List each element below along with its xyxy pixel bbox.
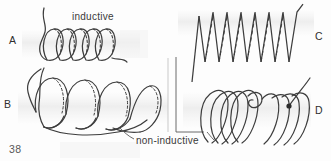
terminal-dot-d (286, 103, 291, 108)
annotation-non-inductive: non-inductive (136, 136, 199, 146)
annotation-inductive: inductive (72, 12, 114, 22)
panel-label-b: B (4, 99, 11, 110)
panel-label-d: D (315, 105, 323, 116)
figure-canvas: A B C D inductive non-inductive 38 (0, 0, 331, 161)
panel-label-c: C (315, 31, 323, 42)
panel-label-a: A (9, 35, 16, 46)
page-number: 38 (9, 144, 22, 155)
